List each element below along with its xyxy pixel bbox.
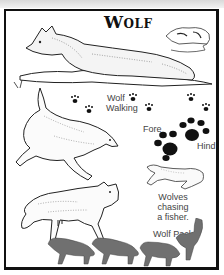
page-title: Wolf xyxy=(104,12,153,32)
hind-label: Hind xyxy=(197,141,216,151)
top-edge-strip xyxy=(0,0,224,8)
fore-label: Fore xyxy=(143,124,162,134)
wolf-chasing-fisher-illustration xyxy=(145,161,207,191)
leaping-wolf-illustration xyxy=(14,86,120,182)
caption-line1: Wolves chasing xyxy=(142,192,204,212)
wolf-pack-illustration xyxy=(44,218,216,268)
wolf-skull-illustration xyxy=(163,20,213,60)
